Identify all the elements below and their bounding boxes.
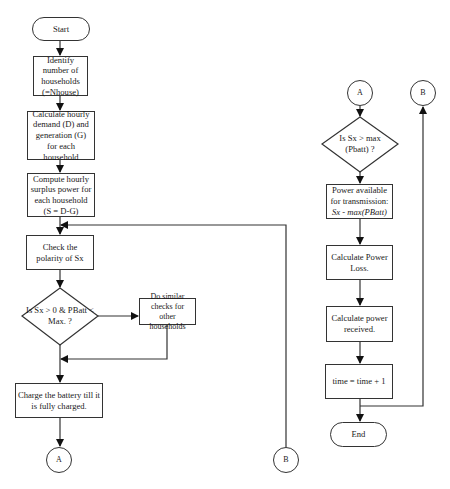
end-terminator: End (330, 422, 387, 447)
connector-b-top: B (410, 80, 436, 106)
power-available-label: Power available for transmission: (329, 185, 390, 206)
power-loss-step: Calculate Power Loss. (326, 245, 393, 280)
compute-surplus-step: Compute hourly surplus power for each ho… (27, 173, 95, 217)
power-received-step: Calculate power received. (326, 306, 393, 342)
connector-a-top: A (347, 80, 373, 106)
power-available-step: Power available for transmission: Sx - m… (326, 184, 393, 219)
start-terminator: Start (32, 17, 90, 41)
time-increment-step: time = time + 1 (325, 364, 393, 399)
check-polarity-step: Check the polarity of Sx (26, 235, 94, 270)
charge-battery-step: Charge the battery till it is fully char… (15, 383, 103, 418)
decision-sx-max-pbatt: Is Sx > max (Pbatt) ? (334, 131, 386, 157)
decision-sx-pbatt: Is Sx > 0 & PBatt < Max. ? (26, 302, 94, 330)
connector-b-bottom: B (273, 447, 299, 473)
calculate-demand-step: Calculate hourly demand (D) and generati… (27, 111, 95, 160)
identify-households-step: Identify number of households (=Nhouse) (33, 56, 88, 96)
connector-a-bottom: A (46, 447, 72, 473)
power-available-formula: Sx - max(PBatt) (332, 207, 387, 218)
do-similar-checks-step: Do similar checks for other households (139, 298, 196, 325)
